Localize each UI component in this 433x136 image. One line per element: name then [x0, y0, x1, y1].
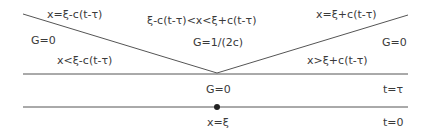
source-point	[214, 104, 220, 110]
t-tau-label: t=τ	[383, 84, 403, 96]
left-region-condition: x<ξ-c(t-τ)	[57, 55, 112, 67]
left-characteristic-label: x=ξ-c(t-τ)	[47, 9, 102, 21]
between-lines-value: G=0	[206, 84, 231, 96]
right-region-value: G=0	[382, 37, 407, 49]
right-region-condition: x>ξ+c(t-τ)	[307, 55, 368, 67]
middle-region-condition: ξ-c(t-τ)<x<ξ+c(t-τ)	[147, 15, 256, 27]
t-zero-label: t=0	[383, 117, 404, 129]
middle-region-value: G=1/(2c)	[193, 37, 243, 49]
source-point-label: x=ξ	[207, 117, 229, 129]
left-region-value: G=0	[31, 35, 56, 47]
right-characteristic-label: x=ξ+c(t-τ)	[316, 9, 377, 21]
